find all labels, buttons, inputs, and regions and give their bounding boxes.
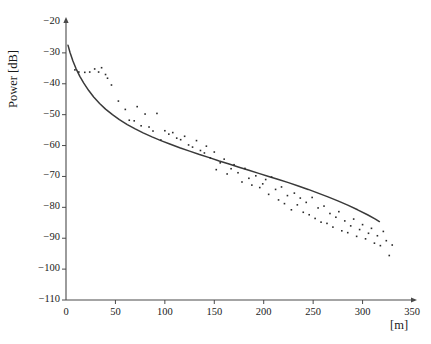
scatter-point xyxy=(164,130,166,132)
scatter-point xyxy=(188,144,190,146)
scatter-point xyxy=(200,150,202,152)
scatter-point xyxy=(377,235,379,237)
scatter-point xyxy=(74,69,76,71)
scatter-point xyxy=(323,205,325,207)
x-axis-arrowhead xyxy=(411,297,417,302)
y-axis-label: Power [dB] xyxy=(6,0,21,108)
scatter-point xyxy=(89,71,91,73)
scatter-point xyxy=(371,228,373,230)
scatter-point xyxy=(144,113,146,115)
scatter-point xyxy=(223,158,225,160)
scatter-point xyxy=(314,218,316,220)
scatter-point xyxy=(338,211,340,213)
x-axis-tick-label: 50 xyxy=(93,306,137,317)
scatter-point xyxy=(311,197,313,199)
scatter-point xyxy=(168,133,170,135)
scatter-point xyxy=(105,74,107,76)
scatter-point xyxy=(118,100,120,102)
axes xyxy=(62,17,417,304)
x-axis-tick-label: 0 xyxy=(44,306,88,317)
scatter-point xyxy=(391,244,393,246)
scatter-point xyxy=(347,232,349,234)
scatter-point xyxy=(294,192,296,194)
scatter-point xyxy=(374,242,376,244)
scatter-point xyxy=(192,146,194,148)
scatter-point xyxy=(305,202,307,204)
y-axis-tick-label: −40 xyxy=(18,77,60,88)
y-axis-tick-label: −110 xyxy=(18,293,60,304)
scatter-point xyxy=(248,178,250,180)
scatter-point xyxy=(244,168,246,170)
scatter-points xyxy=(74,67,393,256)
scatter-point xyxy=(287,195,289,197)
scatter-point xyxy=(281,186,283,188)
scatter-point xyxy=(101,67,103,69)
scatter-point xyxy=(341,230,343,232)
y-axis-tick-label: −20 xyxy=(18,15,60,26)
x-axis-tick-label: 150 xyxy=(192,306,236,317)
scatter-point xyxy=(136,106,138,108)
scatter-point xyxy=(176,137,178,139)
scatter-point xyxy=(359,229,361,231)
y-axis-tick-label: −80 xyxy=(18,200,60,211)
fit-curve xyxy=(68,45,379,221)
y-axis-tick-label: −100 xyxy=(18,262,60,273)
scatter-point xyxy=(125,109,127,111)
scatter-point xyxy=(386,240,388,242)
scatter-point xyxy=(111,84,113,86)
x-axis-tick-label: 350 xyxy=(390,306,431,317)
y-axis-arrowhead xyxy=(63,17,68,23)
scatter-point xyxy=(255,175,257,177)
scatter-point xyxy=(320,221,322,223)
scatter-point xyxy=(233,164,235,166)
scatter-point xyxy=(259,187,261,189)
scatter-point xyxy=(308,214,310,216)
scatter-point xyxy=(362,224,364,226)
scatter-point xyxy=(210,157,212,159)
scatter-point xyxy=(184,135,186,137)
scatter-point xyxy=(84,72,86,74)
scatter-point xyxy=(226,173,228,175)
x-axis-tick-label: 100 xyxy=(143,306,187,317)
scatter-point xyxy=(156,113,158,115)
scatter-point xyxy=(275,189,277,191)
scatter-point xyxy=(344,220,346,222)
scatter-point xyxy=(299,197,301,199)
scatter-point xyxy=(365,238,367,240)
scatter-point xyxy=(133,120,135,122)
scatter-point xyxy=(265,179,267,181)
scatter-point xyxy=(148,126,150,128)
scatter-point xyxy=(262,183,264,185)
x-axis-tick-label: 300 xyxy=(341,306,385,317)
x-axis-tick-label: 250 xyxy=(291,306,335,317)
scatter-point xyxy=(271,176,273,178)
scatter-point xyxy=(98,71,100,73)
power-vs-distance-chart: −20−30−40−50−60−70−80−90−100−11005010015… xyxy=(0,0,431,344)
scatter-point xyxy=(241,181,243,183)
scatter-point xyxy=(128,119,130,121)
scatter-point xyxy=(383,231,385,233)
scatter-point xyxy=(152,130,154,132)
y-axis-tick-label: −30 xyxy=(18,46,60,57)
scatter-point xyxy=(291,209,293,211)
y-axis-tick-label: −50 xyxy=(18,108,60,119)
scatter-point xyxy=(204,152,206,154)
y-axis-tick-label: −90 xyxy=(18,231,60,242)
scatter-point xyxy=(356,236,358,238)
scatter-point xyxy=(251,184,253,186)
scatter-point xyxy=(353,218,355,220)
y-axis-tick-label: −60 xyxy=(18,139,60,150)
scatter-point xyxy=(302,211,304,213)
scatter-point xyxy=(297,204,299,206)
scatter-point xyxy=(219,162,221,164)
x-axis-label: [m] xyxy=(390,318,408,333)
scatter-point xyxy=(206,145,208,147)
scatter-point xyxy=(388,255,390,257)
scatter-point xyxy=(317,207,319,209)
scatter-point xyxy=(230,168,232,170)
scatter-point xyxy=(335,216,337,218)
scatter-point xyxy=(215,169,217,171)
scatter-point xyxy=(329,213,331,215)
scatter-point xyxy=(237,172,239,174)
scatter-point xyxy=(213,151,215,153)
